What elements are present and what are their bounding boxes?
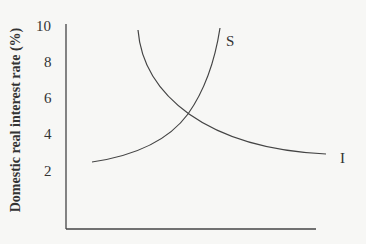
y-axis-label: Domestic real interest rate (%): [8, 20, 24, 220]
investment-curve-label: I: [340, 150, 345, 167]
saving-curve: [92, 28, 220, 162]
chart-plot: [0, 0, 366, 244]
y-tick-6: 6: [44, 90, 52, 107]
y-tick-10: 10: [36, 18, 51, 35]
y-tick-8: 8: [44, 54, 52, 71]
y-tick-4: 4: [44, 126, 52, 143]
saving-curve-label: S: [226, 33, 234, 50]
y-tick-2: 2: [44, 163, 52, 180]
